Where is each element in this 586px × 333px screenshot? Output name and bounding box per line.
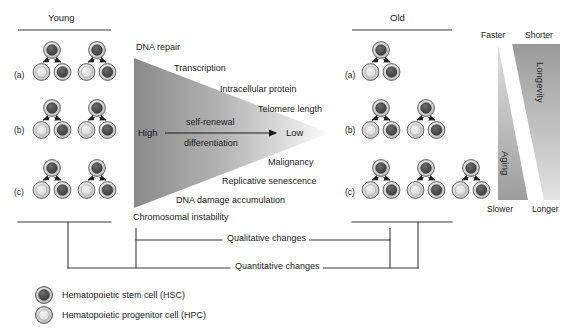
hpc-cell: [33, 182, 50, 199]
old-row-label-b: (b): [345, 126, 355, 135]
old-cell-groups: [362, 42, 490, 199]
division-arrow: [474, 177, 481, 180]
faster-label: Faster: [481, 31, 505, 40]
aging-wedge-label: Aging: [500, 151, 511, 175]
triangle-low-label: Low: [286, 128, 303, 138]
young-row-label-a: (a): [14, 71, 24, 80]
division-arrow: [88, 117, 95, 120]
triangle-high-label: High: [138, 128, 158, 138]
triangle-label-intracellular-protein: Intracellular protein: [220, 85, 297, 94]
division-arrow: [417, 177, 424, 180]
hsc-cell: [54, 122, 71, 139]
hsc-cell: [99, 64, 116, 81]
hsc-cell: [428, 122, 445, 139]
hsc-cell: [54, 182, 71, 199]
division-arrow: [55, 177, 62, 180]
hsc-cell: [373, 100, 390, 117]
hsc-cell: [383, 182, 400, 199]
slower-label: Slower: [487, 205, 513, 214]
legend-icons: [36, 287, 53, 324]
triangle-label-chromosomal-instability: Chromosomal instability: [133, 213, 229, 222]
division-arrow: [372, 59, 379, 62]
division-arrow: [100, 177, 107, 180]
triangle-label-malignancy: Malignancy: [268, 158, 314, 167]
qualitative-changes-label: Qualitative changes: [224, 234, 309, 243]
hsc-cell: [44, 160, 61, 177]
hsc-cell: [418, 100, 435, 117]
hpc-cell: [407, 122, 424, 139]
hsc-cell-icon: [36, 287, 53, 304]
old-panel-title: Old: [390, 13, 405, 23]
hsc-cell: [99, 122, 116, 139]
shorter-label: Shorter: [525, 31, 553, 40]
old-row-label-a: (a): [345, 71, 355, 80]
hsc-cell: [463, 160, 480, 177]
hpc-cell: [407, 182, 424, 199]
hsc-cell: [418, 160, 435, 177]
hsc-cell: [383, 64, 400, 81]
division-arrow: [384, 177, 391, 180]
division-arrow: [43, 117, 50, 120]
hsc-cell: [473, 182, 490, 199]
hpc-cell: [78, 122, 95, 139]
division-arrow: [43, 59, 50, 62]
hsc-cell: [383, 122, 400, 139]
self-renewal-label: self-renewal: [186, 118, 235, 127]
division-arrow: [88, 177, 95, 180]
hsc-cell: [89, 160, 106, 177]
young-row-label-b: (b): [14, 126, 24, 135]
hsc-cell: [54, 64, 71, 81]
division-arrow: [55, 59, 62, 62]
division-arrow: [384, 59, 391, 62]
longer-label: Longer: [532, 205, 558, 214]
figure-canvas: Young Old (a) (b) (c) (a) (b) (c) DNA re…: [0, 0, 586, 333]
legend-label-hpc: Hematopoietic progenitor cell (HPC): [62, 311, 206, 320]
hpc-cell: [362, 122, 379, 139]
division-arrow: [429, 177, 436, 180]
young-row-label-c: (c): [14, 188, 24, 197]
triangle-label-dna-repair: DNA repair: [136, 43, 180, 52]
division-arrow: [417, 117, 424, 120]
triangle-label-replicative-senescence: Replicative senescence: [222, 177, 317, 186]
hsc-cell: [44, 42, 61, 59]
division-arrow: [88, 59, 95, 62]
hsc-cell: [373, 160, 390, 177]
division-arrow: [372, 177, 379, 180]
hpc-cell: [33, 64, 50, 81]
division-arrow: [55, 117, 62, 120]
longevity-aging-panel: [498, 44, 560, 200]
hpc-cell-icon: [36, 307, 53, 324]
hsc-cell: [89, 42, 106, 59]
triangle-label-telomere-length: Telomere length: [258, 105, 322, 114]
hsc-cell: [373, 42, 390, 59]
division-arrow: [100, 117, 107, 120]
hsc-cell: [99, 182, 116, 199]
hsc-cell: [44, 100, 61, 117]
triangle-label-transcription: Transcription: [174, 64, 226, 73]
hpc-cell: [78, 64, 95, 81]
division-arrow: [43, 177, 50, 180]
young-cell-groups: [33, 42, 116, 199]
quantitative-changes-label: Quantitative changes: [232, 262, 323, 271]
hpc-cell: [78, 182, 95, 199]
hsc-cell: [428, 182, 445, 199]
hpc-cell: [362, 182, 379, 199]
differentiation-label: differentiation: [184, 139, 238, 148]
hpc-cell: [452, 182, 469, 199]
hsc-cell: [89, 100, 106, 117]
division-arrow: [100, 59, 107, 62]
longevity-wedge-label: Longevity: [535, 62, 546, 103]
division-arrow: [372, 117, 379, 120]
hpc-cell: [33, 122, 50, 139]
triangle-label-dna-damage-accumulation: DNA damage accumulation: [176, 196, 285, 205]
division-arrow: [384, 117, 391, 120]
division-arrow: [429, 117, 436, 120]
hpc-cell: [362, 64, 379, 81]
legend-label-hsc: Hematopoietic stem cell (HSC): [62, 291, 185, 300]
young-panel-title: Young: [48, 13, 75, 23]
division-arrow: [462, 177, 469, 180]
old-row-label-c: (c): [345, 188, 355, 197]
